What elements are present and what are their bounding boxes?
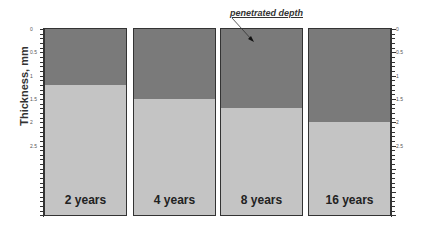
- chart-root: Thickness, mm 000.50.5111.51.5222.52.5 2…: [0, 0, 423, 227]
- annotation-arrow-icon: [0, 0, 423, 227]
